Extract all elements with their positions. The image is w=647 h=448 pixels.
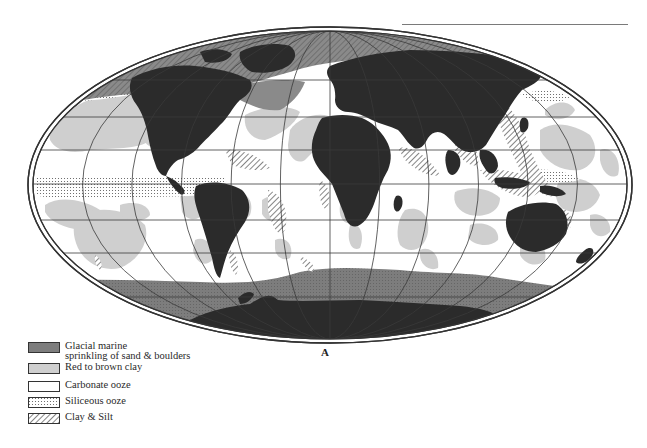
legend-label: Carbonate ooze: [65, 380, 131, 390]
panel-label: A: [321, 346, 329, 358]
legend-label: Glacial marine sprinkling of sand & boul…: [65, 341, 190, 361]
red-clay-swatch: [28, 363, 60, 374]
legend-label: Red to brown clay: [65, 362, 142, 372]
clay-silt-swatch: [28, 413, 60, 424]
legend-item-red-clay: Red to brown clay: [28, 362, 142, 374]
legend-item-carbonate-ooze: Carbonate ooze: [28, 380, 131, 392]
legend-item-glacial-marine: Glacial marine sprinkling of sand & boul…: [28, 341, 190, 361]
legend-item-clay-silt: Clay & Silt: [28, 412, 113, 424]
legend-label: Clay & Silt: [65, 412, 113, 422]
glacial-marine-swatch: [28, 342, 60, 353]
legend-label: Siliceous ooze: [65, 396, 126, 406]
legend-item-siliceous-ooze: Siliceous ooze: [28, 396, 126, 408]
siliceous-ooze-swatch: [28, 397, 60, 408]
carbonate-ooze-swatch: [28, 381, 60, 392]
